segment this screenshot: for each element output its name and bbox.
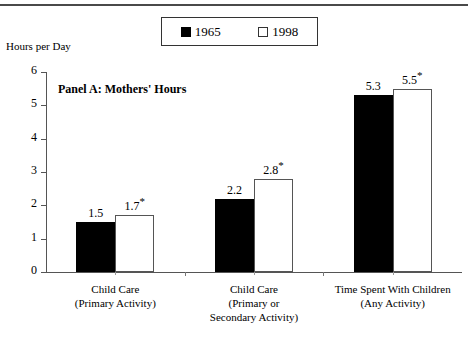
x-axis-minor-tick [115, 272, 116, 275]
significance-marker: * [278, 159, 284, 171]
significance-marker: * [140, 195, 146, 207]
legend-entry-1965: 1965 [181, 25, 221, 38]
y-axis-tick: 4 [41, 139, 46, 140]
x-axis-minor-tick [254, 272, 255, 275]
x-axis-category-line: Child Care [210, 282, 298, 296]
x-axis-tick [185, 272, 186, 276]
top-divider-rule [0, 4, 468, 6]
bar-1998-1 [115, 215, 154, 272]
x-axis-category-line: (Primary Activity) [75, 296, 156, 310]
bar-value-label: 5.5* [402, 74, 423, 86]
bar-value-label: 1.5 [88, 207, 103, 219]
bar-value-label: 5.3 [366, 80, 381, 92]
y-axis-tick: 5 [41, 105, 46, 106]
filled-square-icon [181, 27, 191, 37]
y-axis-tick-label: 2 [31, 197, 37, 209]
y-axis-tick-label: 6 [31, 64, 37, 76]
y-axis-tick: 6 [41, 72, 46, 73]
x-axis-category-line: (Any Activity) [335, 296, 451, 310]
y-axis-tick: 3 [41, 172, 46, 173]
y-axis-tick-label: 5 [31, 97, 37, 109]
hollow-square-icon [258, 27, 268, 37]
chart-legend: 1965 1998 [161, 17, 318, 46]
plot-area: Panel A: Mothers' Hours 0123456 1.51.7*2… [46, 72, 462, 273]
x-axis-category-line: Child Care [75, 282, 156, 296]
x-axis-category-line: (Primary or [210, 296, 298, 310]
bar-1998-2 [254, 179, 293, 272]
x-axis-category-label-3: Time Spent With Children(Any Activity) [335, 282, 451, 310]
x-axis-category-line: Secondary Activity) [210, 310, 298, 324]
bar-1998-3 [393, 89, 432, 272]
y-axis-line [46, 72, 47, 273]
y-axis-tick-label: 3 [31, 164, 37, 176]
bar-1965-3 [354, 95, 393, 272]
bar-1965-1 [76, 222, 115, 272]
bar-value-label: 1.7* [125, 200, 146, 212]
y-axis-tick-label: 0 [31, 264, 37, 276]
legend-entry-1998: 1998 [258, 25, 298, 38]
x-axis-minor-tick [393, 272, 394, 275]
significance-marker: * [417, 69, 423, 81]
bar-value-label: 2.8* [263, 164, 284, 176]
x-axis-category-line: Time Spent With Children [335, 282, 451, 296]
legend-label-1965: 1965 [195, 25, 221, 38]
y-axis-title: Hours per Day [6, 40, 71, 52]
y-axis-tick: 2 [41, 205, 46, 206]
x-axis-category-label-1: Child Care(Primary Activity) [75, 282, 156, 310]
bar-value-label: 2.2 [227, 184, 242, 196]
y-axis-tick-label: 1 [31, 231, 37, 243]
chart-figure: Hours per Day 1965 1998 Panel A: Mothers… [0, 0, 468, 345]
y-axis-tick-label: 4 [31, 131, 37, 143]
x-axis-category-label-2: Child Care(Primary orSecondary Activity) [210, 282, 298, 324]
legend-label-1998: 1998 [272, 25, 298, 38]
bar-1965-2 [215, 199, 254, 272]
y-axis-tick: 1 [41, 239, 46, 240]
y-axis-tick: 0 [41, 272, 46, 273]
panel-title: Panel A: Mothers' Hours [58, 82, 186, 97]
x-axis-tick [323, 272, 324, 276]
